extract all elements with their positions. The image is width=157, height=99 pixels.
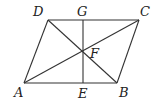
segments: [24, 20, 139, 83]
point-label-B: B: [118, 85, 129, 99]
point-label-A: A: [13, 85, 23, 99]
point-label-D: D: [32, 4, 44, 19]
point-label-F: F: [89, 46, 100, 61]
geometry-figure: ABCDEFG: [0, 0, 157, 99]
segment-BC: [117, 20, 139, 83]
segment-AC: [24, 20, 139, 83]
point-label-G: G: [77, 4, 87, 19]
point-label-E: E: [77, 86, 88, 99]
segment-DA: [24, 20, 48, 83]
point-label-C: C: [140, 4, 150, 19]
